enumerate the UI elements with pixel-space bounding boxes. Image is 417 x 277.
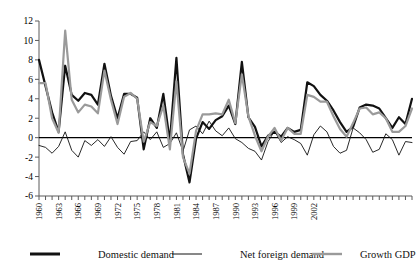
x-tick-label: 1969 <box>93 203 103 220</box>
y-tick-label: -2 <box>25 153 33 163</box>
y-tick-label: 4 <box>28 94 33 104</box>
chart-legend: Domestic demandNet foreign demandGrowth … <box>30 249 416 260</box>
legend-label-growth-gdp: Growth GDP <box>360 249 416 260</box>
y-tick-label: 12 <box>24 16 34 26</box>
x-tick-label: 1975 <box>132 203 142 220</box>
x-tick-label: 1978 <box>152 203 162 220</box>
series-line-domestic-demand <box>39 58 412 182</box>
x-axis-tick-marks <box>39 196 412 200</box>
series-line-net-foreign-demand <box>39 121 412 160</box>
y-tick-label: 6 <box>28 75 33 85</box>
x-axis-tick-labels: 1960196319661969197219751978198119841987… <box>34 202 319 220</box>
y-axis-tick-labels: -6-4-2024681012 <box>24 16 34 201</box>
x-tick-label: 1987 <box>211 203 221 220</box>
x-tick-label: 1984 <box>191 202 201 220</box>
y-tick-label: 0 <box>28 133 33 143</box>
x-tick-label: 1996 <box>270 203 280 220</box>
x-tick-label: 1960 <box>34 203 44 220</box>
y-axis-tick-marks <box>35 21 39 196</box>
line-chart: -6-4-2024681012 196019631966196919721975… <box>0 0 417 277</box>
legend-label-domestic-demand: Domestic demand <box>98 249 175 260</box>
x-tick-label: 1990 <box>231 203 241 220</box>
chart-figure: -6-4-2024681012 196019631966196919721975… <box>0 0 417 277</box>
y-tick-label: -6 <box>25 191 33 201</box>
y-tick-label: -4 <box>25 172 33 182</box>
y-tick-label: 8 <box>28 55 33 65</box>
x-tick-label: 1966 <box>73 203 83 220</box>
x-tick-label: 1993 <box>250 203 260 220</box>
y-tick-label: 10 <box>24 36 34 46</box>
x-tick-label: 1999 <box>289 203 299 220</box>
x-tick-label: 1981 <box>172 203 182 220</box>
y-tick-label: 2 <box>28 114 33 124</box>
x-tick-label: 1963 <box>54 203 64 220</box>
x-tick-label: 2002 <box>309 203 319 220</box>
data-series-group <box>39 31 412 183</box>
x-tick-label: 1972 <box>113 203 123 220</box>
